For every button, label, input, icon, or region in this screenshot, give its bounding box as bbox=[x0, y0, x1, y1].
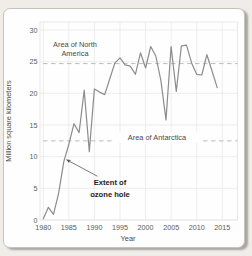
y-tick-20: 20 bbox=[30, 89, 38, 98]
y-tick-0: 0 bbox=[34, 216, 38, 225]
x-tick-2010: 2010 bbox=[189, 223, 205, 232]
x-tick-2000: 2000 bbox=[138, 223, 154, 232]
y-tick-10: 10 bbox=[30, 152, 38, 161]
x-tick-1980: 1980 bbox=[35, 223, 51, 232]
ref-label-antarctica: Area of Antarctica bbox=[128, 133, 187, 142]
figure-stage: Area of NorthAmericaArea of AntarcticaEx… bbox=[0, 0, 252, 256]
annotation-text-line1: Extent of bbox=[94, 178, 127, 187]
x-tick-1985: 1985 bbox=[61, 223, 77, 232]
x-tick-2005: 2005 bbox=[163, 223, 179, 232]
annotation-text-line2: ozone hole bbox=[90, 190, 130, 199]
y-axis-title: Million square kilometers bbox=[4, 80, 13, 162]
ref-label-north-america-2: America bbox=[61, 49, 89, 58]
y-tick-5: 5 bbox=[34, 184, 38, 193]
x-tick-2015: 2015 bbox=[214, 223, 230, 232]
x-tick-1995: 1995 bbox=[112, 223, 128, 232]
y-tick-25: 25 bbox=[30, 57, 38, 66]
y-tick-15: 15 bbox=[30, 121, 38, 130]
y-tick-30: 30 bbox=[30, 26, 38, 35]
x-axis-title: Year bbox=[121, 234, 136, 243]
annotation-arrow bbox=[67, 160, 98, 176]
ozone-hole-chart: Area of NorthAmericaArea of AntarcticaEx… bbox=[0, 0, 252, 256]
axis-tick-labels: 1980198519901995200020052010201505101520… bbox=[30, 26, 231, 232]
x-tick-1990: 1990 bbox=[86, 223, 102, 232]
ref-label-north-america-1: Area of North bbox=[53, 40, 97, 49]
